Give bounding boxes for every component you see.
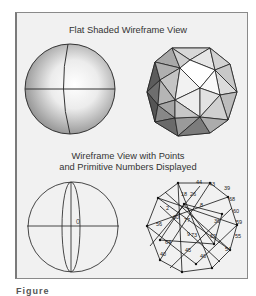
svg-text:60: 60 [233, 208, 239, 214]
svg-text:39: 39 [224, 185, 230, 191]
svg-text:68: 68 [229, 196, 235, 202]
svg-text:73: 73 [191, 232, 197, 238]
primitive-numbers: 4443 3968 6059 5554 1826 28 6077 5673 62… [156, 179, 242, 259]
svg-text:40: 40 [160, 251, 166, 257]
svg-text:26: 26 [190, 191, 196, 197]
svg-text:45: 45 [185, 247, 191, 253]
figure-caption: Figure [16, 286, 50, 296]
shaded-sphere [25, 44, 115, 134]
svg-text:54: 54 [225, 246, 231, 252]
svg-text:2: 2 [166, 205, 169, 211]
svg-text:60: 60 [173, 214, 179, 220]
svg-text:77: 77 [184, 217, 190, 223]
svg-text:62: 62 [210, 233, 216, 239]
svg-text:55: 55 [235, 233, 241, 239]
geodesic-shaded-sphere [147, 48, 237, 136]
svg-text:64: 64 [165, 239, 171, 245]
svg-text:59: 59 [236, 219, 242, 225]
svg-text:36: 36 [214, 218, 220, 224]
wireframe-sphere [27, 182, 119, 272]
svg-text:56: 56 [156, 221, 162, 227]
primitive-label-0: 0 [76, 218, 80, 225]
svg-text:44: 44 [196, 179, 202, 185]
svg-text:8: 8 [200, 202, 203, 208]
svg-text:18: 18 [181, 191, 187, 197]
svg-text:9: 9 [187, 231, 190, 237]
svg-text:46: 46 [200, 253, 206, 259]
svg-text:43: 43 [209, 181, 215, 187]
